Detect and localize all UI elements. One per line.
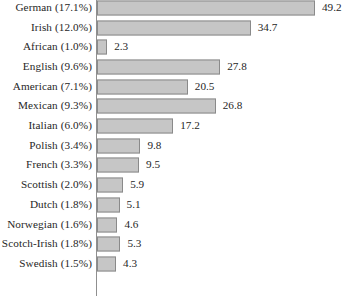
category-label: American (7.1%) — [13, 81, 92, 92]
bar — [97, 40, 107, 55]
bar — [97, 79, 188, 94]
bar-row: African (1.0%)2.3 — [0, 37, 349, 57]
bar-row: Norwegian (1.6%)4.6 — [0, 215, 349, 235]
bar — [97, 138, 140, 153]
bar-row: American (7.1%)20.5 — [0, 77, 349, 97]
bar-value-label: 17.2 — [180, 120, 200, 131]
bar — [97, 217, 117, 232]
bar-value-label: 20.5 — [195, 81, 215, 92]
bar-value-label: 4.6 — [124, 219, 138, 230]
category-label: Dutch (1.8%) — [30, 199, 92, 210]
bar — [97, 197, 120, 212]
bar-row: Polish (3.4%)9.8 — [0, 136, 349, 156]
bar-value-label: 5.3 — [127, 239, 141, 250]
bar-value-label: 34.7 — [258, 22, 278, 33]
category-label: French (3.3%) — [26, 160, 92, 171]
bar-row: English (9.6%)27.8 — [0, 57, 349, 77]
bar-row: French (3.3%)9.5 — [0, 156, 349, 176]
bar — [97, 59, 220, 74]
bar-value-label: 9.5 — [146, 160, 160, 171]
bar-value-label: 49.2 — [322, 2, 342, 13]
bar — [97, 119, 173, 134]
bar-chart: German (17.1%)49.2Irish (12.0%)34.7Afric… — [0, 0, 349, 304]
bar — [97, 178, 123, 193]
bar-row: Dutch (1.8%)5.1 — [0, 195, 349, 215]
category-label: Mexican (9.3%) — [18, 101, 92, 112]
bar-value-label: 27.8 — [227, 61, 247, 72]
bar-row: Irish (12.0%)34.7 — [0, 18, 349, 38]
bar — [97, 256, 116, 271]
category-label: Polish (3.4%) — [29, 140, 92, 151]
category-label: Swedish (1.5%) — [19, 258, 92, 269]
bar-value-label: 2.3 — [114, 42, 128, 53]
bar — [97, 20, 251, 35]
bar-value-label: 4.3 — [123, 258, 137, 269]
bar-row: Scotch-Irish (1.8%)5.3 — [0, 234, 349, 254]
category-label: Scotch-Irish (1.8%) — [2, 239, 92, 250]
bar-row: Scottish (2.0%)5.9 — [0, 175, 349, 195]
bar-value-label: 5.1 — [127, 199, 141, 210]
category-label: Norwegian (1.6%) — [7, 219, 92, 230]
bar-row: Swedish (1.5%)4.3 — [0, 254, 349, 274]
category-label: Scottish (2.0%) — [21, 180, 92, 191]
category-label: African (1.0%) — [23, 42, 92, 53]
bar — [97, 99, 216, 114]
plot-area: German (17.1%)49.2Irish (12.0%)34.7Afric… — [0, 0, 349, 304]
bar-value-label: 5.9 — [130, 180, 144, 191]
bar — [97, 158, 139, 173]
category-label: Italian (6.0%) — [28, 120, 92, 131]
bar-row: Italian (6.0%)17.2 — [0, 116, 349, 136]
bar-row: German (17.1%)49.2 — [0, 0, 349, 18]
bar-row: Mexican (9.3%)26.8 — [0, 97, 349, 117]
bar — [97, 0, 315, 15]
bar-value-label: 26.8 — [223, 101, 243, 112]
bar — [97, 237, 120, 252]
category-label: Irish (12.0%) — [31, 22, 92, 33]
bar-value-label: 9.8 — [147, 140, 161, 151]
category-label: German (17.1%) — [15, 2, 92, 13]
category-label: English (9.6%) — [23, 61, 92, 72]
